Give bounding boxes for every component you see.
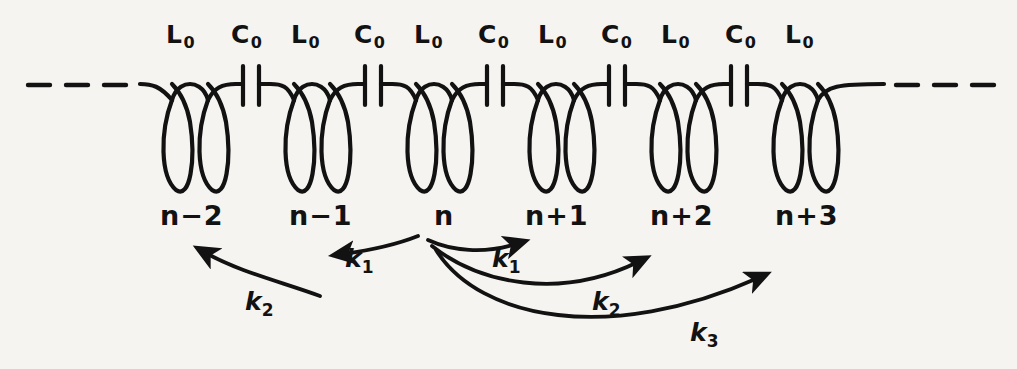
wire-and-coils	[140, 66, 884, 192]
subscript: 0	[678, 33, 690, 52]
circuit-figure: L0 C0 L0 C0 L0 C0 L0 C0 L0 C0 L0 n−2 n−1…	[0, 0, 1017, 369]
subscript: 0	[374, 33, 386, 52]
subscript: 0	[183, 33, 195, 52]
subscript: 0	[431, 33, 443, 52]
subscript: 1	[362, 257, 374, 277]
subscript: 0	[498, 33, 510, 52]
component-label-C0-3: C0	[478, 22, 509, 47]
subscript: 0	[251, 33, 263, 52]
subscript: 3	[707, 331, 719, 351]
circuit-drawing	[0, 0, 1017, 369]
component-label-L0-4: L0	[538, 22, 566, 47]
subscript: 0	[308, 33, 320, 52]
component-label-L0-6: L0	[785, 22, 813, 47]
site-label-n-plus-2: n+2	[650, 202, 714, 229]
site-label-n-minus-2: n−2	[160, 202, 224, 229]
coupling-arrows	[206, 236, 758, 317]
site-label-n-plus-3: n+3	[775, 202, 839, 229]
subscript: 0	[555, 33, 567, 52]
site-label-n: n	[434, 202, 454, 229]
component-label-C0-1: C0	[231, 22, 262, 47]
site-label-n-minus-1: n−1	[289, 202, 353, 229]
subscript: 1	[509, 257, 521, 277]
component-label-L0-5: L0	[661, 22, 689, 47]
coupling-label-k1-left: k1	[345, 246, 373, 271]
component-label-C0-5: C0	[725, 22, 756, 47]
subscript: 0	[621, 33, 633, 52]
subscript: 0	[745, 33, 757, 52]
subscript: 2	[262, 300, 274, 320]
subscript: 0	[802, 33, 814, 52]
coupling-label-k3-right: k3	[690, 320, 718, 345]
component-label-C0-4: C0	[601, 22, 632, 47]
site-label-n-plus-1: n+1	[525, 202, 589, 229]
coupling-label-k2-left: k2	[245, 289, 273, 314]
coupling-label-k1-right: k1	[492, 246, 520, 271]
component-label-L0-2: L0	[291, 22, 319, 47]
component-label-L0-3: L0	[414, 22, 442, 47]
component-label-L0-1: L0	[166, 22, 194, 47]
component-label-C0-2: C0	[354, 22, 385, 47]
subscript: 2	[609, 300, 621, 320]
coupling-label-k2-right: k2	[592, 289, 620, 314]
